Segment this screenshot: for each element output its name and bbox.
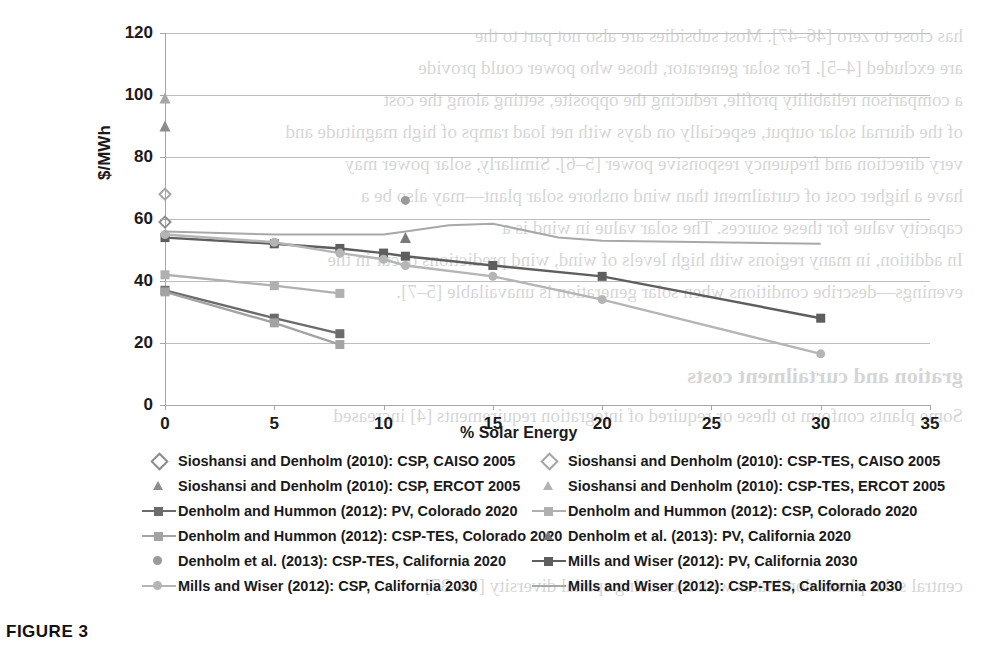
x-axis-tick-label: 35	[900, 414, 960, 434]
data-series	[161, 230, 826, 358]
series-marker	[400, 232, 411, 243]
y-axis-tickmark	[160, 157, 165, 158]
series-marker	[816, 314, 825, 323]
legend-key	[140, 477, 178, 495]
series-marker	[488, 261, 497, 270]
series-marker	[598, 272, 607, 281]
series-marker	[335, 249, 344, 258]
legend-item-label: Mills and Wiser (2012): PV, California 2…	[568, 553, 857, 569]
legend-item[interactable]: Mills and Wiser (2012): PV, California 2…	[530, 548, 980, 573]
x-axis-tickmark	[384, 405, 385, 410]
y-axis-tickmark	[160, 33, 165, 34]
legend-key	[140, 577, 178, 595]
x-axis-tick-label: 0	[135, 414, 195, 434]
legend-square-marker	[544, 507, 553, 516]
y-axis-tick-label: 80	[134, 147, 153, 167]
y-axis-tickmark	[160, 95, 165, 96]
legend-key	[530, 502, 568, 520]
legend-item[interactable]: Denholm and Hummon (2012): CSP, Colorado…	[530, 498, 980, 523]
legend-circle-marker	[153, 581, 162, 590]
y-axis-tickmark	[160, 219, 165, 220]
legend-key	[530, 577, 568, 595]
x-axis-tick-label: 25	[681, 414, 741, 434]
x-axis-tick-label: 5	[244, 414, 304, 434]
series-marker	[401, 196, 410, 205]
series-marker	[816, 349, 825, 358]
series-marker	[401, 252, 410, 261]
legend-item[interactable]: Denholm and Hummon (2012): PV, Colorado …	[140, 498, 530, 523]
legend-item-label: Mills and Wiser (2012): CSP, California …	[178, 578, 477, 594]
series-marker	[270, 281, 279, 290]
legend-triangle-marker	[543, 481, 553, 490]
legend-key	[530, 527, 568, 545]
x-axis-tickmark	[165, 405, 166, 410]
x-axis-tickmark	[602, 405, 603, 410]
series-marker	[598, 295, 607, 304]
x-axis-tickmark	[711, 405, 712, 410]
figure-caption: FIGURE 3	[6, 622, 88, 642]
legend-item[interactable]: Denholm and Hummon (2012): CSP-TES, Colo…	[140, 523, 530, 548]
data-series-layer	[165, 33, 930, 405]
plot-area: 020406080100120 05101520253035	[165, 33, 930, 405]
legend-item[interactable]: Sioshansi and Denholm (2010): CSP, ERCOT…	[140, 473, 530, 498]
data-series	[161, 270, 345, 298]
y-axis-tick-label: 120	[125, 23, 153, 43]
x-axis-tickmark	[493, 405, 494, 410]
legend-item[interactable]: Mills and Wiser (2012): CSP-TES, Califor…	[530, 573, 980, 598]
series-marker	[335, 329, 344, 338]
series-marker	[401, 261, 410, 270]
legend-item-label: Denholm et al. (2013): PV, California 20…	[568, 528, 851, 544]
series-marker	[160, 189, 171, 200]
legend-item[interactable]: Denholm et al. (2013): PV, California 20…	[530, 523, 980, 548]
legend-key	[530, 452, 568, 470]
legend-square-marker	[544, 557, 553, 566]
legend-item[interactable]: Sioshansi and Denholm (2010): CSP-TES, C…	[530, 448, 980, 473]
legend-line-swatch	[532, 585, 566, 587]
x-axis-tickmark	[821, 405, 822, 410]
series-marker	[270, 238, 279, 247]
series-marker	[270, 318, 279, 327]
legend-key	[140, 552, 178, 570]
y-axis-tick-label: 100	[125, 85, 153, 105]
legend-item-label: Mills and Wiser (2012): CSP-TES, Califor…	[568, 578, 902, 594]
legend-item-label: Denholm et al. (2013): CSP-TES, Californ…	[178, 553, 506, 569]
legend-key	[530, 477, 568, 495]
legend-diamond-marker	[540, 452, 558, 470]
series-marker	[335, 289, 344, 298]
series-marker	[379, 255, 388, 264]
legend-item-label: Denholm and Hummon (2012): CSP-TES, Colo…	[178, 528, 562, 544]
legend-item-label: Denholm and Hummon (2012): PV, Colorado …	[178, 503, 517, 519]
figure-3-chart: $/MWh % Solar Energy 020406080100120 051…	[0, 0, 983, 660]
y-axis-tick-label: 0	[144, 395, 153, 415]
series-line	[165, 235, 821, 354]
legend-key	[140, 502, 178, 520]
series-marker	[335, 340, 344, 349]
legend-item[interactable]: Denholm et al. (2013): CSP-TES, Californ…	[140, 548, 530, 573]
legend-item-label: Sioshansi and Denholm (2010): CSP, CAISO…	[178, 453, 515, 469]
y-axis-title: $/MWh	[95, 125, 115, 180]
series-marker	[488, 272, 497, 281]
series-line	[165, 290, 340, 333]
y-axis-tick-label: 60	[134, 209, 153, 229]
series-marker	[160, 121, 171, 132]
y-axis-tickmark	[160, 281, 165, 282]
legend-item[interactable]: Sioshansi and Denholm (2010): CSP, CAISO…	[140, 448, 530, 473]
legend-item-label: Sioshansi and Denholm (2010): CSP-TES, E…	[568, 478, 945, 494]
legend-key	[530, 552, 568, 570]
chart-legend: Sioshansi and Denholm (2010): CSP, CAISO…	[140, 448, 980, 598]
x-axis-tick-label: 20	[572, 414, 632, 434]
series-marker	[161, 270, 170, 279]
legend-item[interactable]: Sioshansi and Denholm (2010): CSP-TES, E…	[530, 473, 980, 498]
legend-item-label: Denholm and Hummon (2012): CSP, Colorado…	[568, 503, 917, 519]
x-axis-tick-label: 10	[354, 414, 414, 434]
legend-key	[140, 527, 178, 545]
y-axis-tick-label: 40	[134, 271, 153, 291]
y-axis-tickmark	[160, 343, 165, 344]
x-axis-line	[165, 405, 930, 406]
data-series	[160, 121, 171, 132]
x-axis-tick-label: 30	[791, 414, 851, 434]
series-line	[165, 275, 340, 294]
series-line	[165, 292, 340, 345]
legend-item[interactable]: Mills and Wiser (2012): CSP, California …	[140, 573, 530, 598]
data-series	[400, 232, 411, 243]
